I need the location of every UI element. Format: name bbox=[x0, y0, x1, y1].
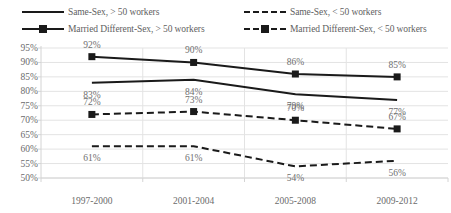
chart-legend: Same-Sex, > 50 workers Same-Sex, < 50 wo… bbox=[0, 3, 451, 43]
legend-item-label: Married Different-Sex, > 50 workers bbox=[68, 23, 205, 35]
x-axis-tick-label: 2009-2012 bbox=[377, 196, 418, 206]
data-point-label: 61% bbox=[185, 153, 202, 163]
legend-line-solid-marker-icon bbox=[22, 23, 64, 35]
data-point-label: 86% bbox=[287, 57, 304, 67]
data-point-label: 67% bbox=[388, 112, 405, 122]
legend-square-marker-icon bbox=[39, 25, 47, 33]
legend-item-same-sex-lt50: Same-Sex, < 50 workers bbox=[244, 6, 381, 18]
legend-item-label: Married Different-Sex, < 50 workers bbox=[290, 23, 427, 35]
x-axis-tick-label: 2001-2004 bbox=[173, 196, 214, 206]
legend-item-married-diff-sex-gt50: Married Different-Sex, > 50 workers bbox=[22, 23, 205, 35]
legend-item-label: Same-Sex, < 50 workers bbox=[290, 6, 381, 18]
legend-item-same-sex-gt50: Same-Sex, > 50 workers bbox=[22, 6, 159, 18]
data-point-label: 85% bbox=[388, 60, 405, 70]
legend-line-solid-icon bbox=[22, 6, 64, 18]
data-point-label: 92% bbox=[83, 40, 100, 50]
legend-item-married-diff-sex-lt50: Married Different-Sex, < 50 workers bbox=[244, 23, 427, 35]
figure-caption bbox=[30, 206, 450, 213]
data-point-label: 54% bbox=[287, 173, 304, 183]
data-point-label: 73% bbox=[185, 95, 202, 105]
x-axis-tick-label: 1997-2000 bbox=[71, 196, 112, 206]
data-point-labels: 92%90%86%85%83%84%79%77%72%73%70%67%61%6… bbox=[0, 44, 451, 194]
data-point-label: 70% bbox=[287, 103, 304, 113]
legend-square-marker-icon bbox=[261, 25, 269, 33]
data-point-label: 90% bbox=[185, 45, 202, 55]
legend-item-label: Same-Sex, > 50 workers bbox=[68, 6, 159, 18]
legend-line-dashed-marker-icon bbox=[244, 23, 286, 35]
data-point-label: 72% bbox=[83, 97, 100, 107]
data-point-label: 61% bbox=[83, 153, 100, 163]
legend-line-dashed-icon bbox=[244, 6, 286, 18]
data-point-label: 56% bbox=[388, 168, 405, 178]
x-axis-tick-label: 2005-2008 bbox=[275, 196, 316, 206]
